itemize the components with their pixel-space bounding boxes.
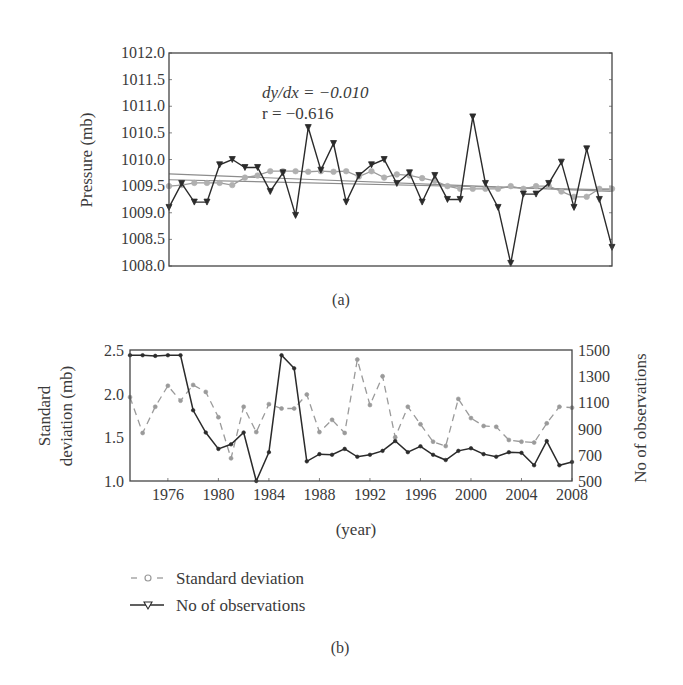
circle-marker xyxy=(406,450,410,454)
circle-marker xyxy=(293,168,299,174)
circle-marker xyxy=(242,175,248,181)
circle-marker xyxy=(495,186,501,192)
circle-marker xyxy=(216,415,220,419)
circle-marker xyxy=(292,367,296,371)
circle-marker xyxy=(482,424,486,428)
standard-deviation-line xyxy=(130,360,572,459)
circle-marker xyxy=(305,393,309,397)
circle-marker xyxy=(381,175,387,181)
triangle-marker xyxy=(571,204,577,210)
circle-marker xyxy=(356,455,360,459)
x-tick-label: 1992 xyxy=(354,486,386,503)
circle-marker xyxy=(545,421,549,425)
panel-b-left-y-axis-title-line2: deviation (mb) xyxy=(57,366,76,467)
right-y-tick-label: 1500 xyxy=(578,342,610,359)
circle-marker xyxy=(444,444,448,448)
circle-marker xyxy=(343,447,347,451)
circle-marker xyxy=(255,173,261,179)
circle-marker xyxy=(444,458,448,462)
y-tick-label: 1011.0 xyxy=(122,97,165,114)
x-tick-label: 1984 xyxy=(253,486,285,503)
circle-marker xyxy=(242,405,246,409)
panel-a-caption: (a) xyxy=(332,291,350,309)
circle-marker xyxy=(153,405,157,409)
dashed-circle-marker-icon xyxy=(131,575,163,581)
figure: 1008.01008.51009.01009.51010.01010.51011… xyxy=(0,0,683,685)
circle-marker xyxy=(406,405,410,409)
triangle-marker xyxy=(217,162,223,168)
triangle-marker xyxy=(419,199,425,205)
triangle-marker xyxy=(584,146,590,152)
circle-marker xyxy=(217,447,221,451)
panel-b-right-y-axis-title: No of observations xyxy=(631,353,650,482)
right-y-tick-label: 1100 xyxy=(578,394,609,411)
circle-marker xyxy=(368,453,372,457)
circle-marker xyxy=(545,439,549,443)
y-tick-label: 1010.5 xyxy=(121,124,165,141)
circle-marker xyxy=(305,460,309,464)
triangle-marker xyxy=(495,204,501,210)
circle-marker xyxy=(507,450,511,454)
circle-marker xyxy=(381,374,385,378)
circle-marker xyxy=(445,183,451,189)
panel-b-legend: Standard deviation No of observations xyxy=(130,569,305,615)
circle-marker xyxy=(318,452,322,456)
x-tick-label: 2004 xyxy=(505,486,537,503)
circle-marker xyxy=(330,453,334,457)
circle-marker xyxy=(482,452,486,456)
circle-marker xyxy=(431,440,435,444)
triangle-marker xyxy=(432,172,438,178)
left-y-tick-label: 1.5 xyxy=(104,429,124,446)
panel-a-y-axis: 1008.01008.51009.01009.51010.01010.51011… xyxy=(121,44,612,274)
circle-marker xyxy=(381,449,385,453)
circle-marker xyxy=(494,455,498,459)
panel-a-chart: 1008.01008.51009.01009.51010.01010.51011… xyxy=(77,44,615,309)
legend-label-no-of-observations: No of observations xyxy=(176,596,305,615)
circle-marker xyxy=(141,431,145,435)
triangle-marker xyxy=(596,196,602,202)
circle-marker xyxy=(153,354,157,358)
circle-marker xyxy=(204,180,210,186)
circle-marker xyxy=(533,183,539,189)
circle-marker xyxy=(229,182,235,188)
circle-marker xyxy=(166,384,170,388)
panel-b-caption: (b) xyxy=(331,639,350,657)
x-tick-label: 1996 xyxy=(404,486,436,503)
panel-a-r-annotation: r = −0.616 xyxy=(262,104,334,123)
circle-marker xyxy=(204,390,208,394)
circle-marker xyxy=(557,405,561,409)
circle-marker xyxy=(292,407,296,411)
circle-marker xyxy=(470,186,476,192)
circle-marker xyxy=(507,438,511,442)
legend-item-no-of-observations: No of observations xyxy=(130,596,305,615)
circle-marker xyxy=(179,399,183,403)
circle-marker xyxy=(393,435,397,439)
circle-marker xyxy=(179,353,183,357)
triangle-marker xyxy=(482,180,488,186)
triangle-marker xyxy=(305,125,311,131)
circle-marker xyxy=(532,441,536,445)
circle-marker xyxy=(456,397,460,401)
circle-marker xyxy=(267,402,271,406)
circle-marker xyxy=(469,446,473,450)
solid-triangle-marker-icon xyxy=(130,602,164,609)
circle-marker xyxy=(469,416,473,420)
circle-marker xyxy=(418,422,422,426)
triangle-marker xyxy=(470,114,476,120)
legend-label-standard-deviation: Standard deviation xyxy=(176,569,304,588)
triangle-marker xyxy=(343,199,349,205)
right-y-tick-label: 1300 xyxy=(578,368,610,385)
circle-marker xyxy=(229,456,233,460)
circle-marker xyxy=(431,453,435,457)
circle-marker xyxy=(267,168,273,174)
triangle-marker xyxy=(381,157,387,163)
circle-marker xyxy=(343,431,347,435)
y-tick-label: 1011.5 xyxy=(122,71,165,88)
circle-marker xyxy=(393,439,397,443)
circle-marker xyxy=(508,183,514,189)
x-tick-label: 2000 xyxy=(455,486,487,503)
circle-marker xyxy=(519,440,523,444)
triangle-marker xyxy=(267,188,273,194)
circle-marker xyxy=(419,175,425,181)
circle-marker xyxy=(343,168,349,174)
